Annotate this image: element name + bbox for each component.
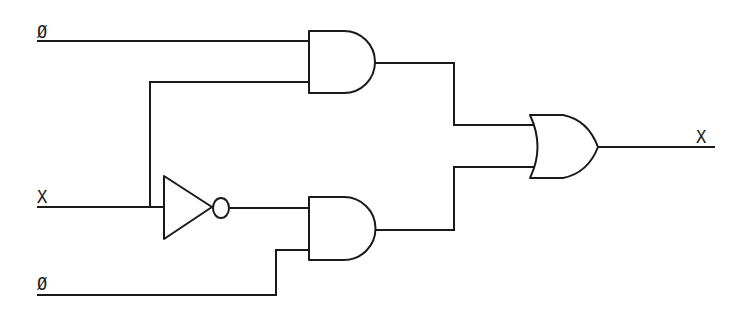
not-gate-icon — [164, 176, 212, 239]
output-x-label: X — [696, 127, 707, 147]
wire-and-bottom-output — [375, 167, 535, 230]
logic-circuit-diagram: Ø X Ø X — [0, 0, 749, 317]
wire-bottom-input — [38, 250, 309, 295]
wire-and-top-output — [375, 63, 535, 125]
input-x-label: X — [37, 187, 48, 207]
input-top-label: Ø — [37, 22, 47, 42]
or-gate-icon — [530, 115, 598, 178]
not-bubble-icon — [213, 198, 229, 218]
input-bottom-label: Ø — [37, 274, 47, 294]
and-gate-top-icon — [309, 31, 375, 93]
and-gate-bottom-icon — [309, 197, 376, 260]
